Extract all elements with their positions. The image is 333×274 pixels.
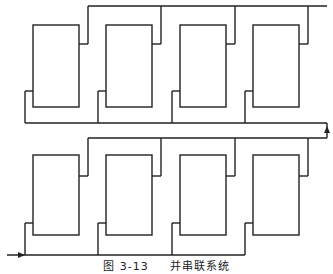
component-box [106,155,152,235]
link-arrow-icon [324,126,330,133]
series-parallel-diagram [0,0,333,274]
component-box [180,155,226,235]
component-box [253,155,299,235]
figure-title: 并串联系统 [170,260,230,273]
component-box [33,25,79,107]
component-box [253,25,299,107]
component-box [106,25,152,107]
component-box [180,25,226,107]
figure-label: 图 3-13 [103,260,148,273]
figure-caption: 图 3-13 并串联系统 [0,257,333,273]
component-box [33,155,79,235]
